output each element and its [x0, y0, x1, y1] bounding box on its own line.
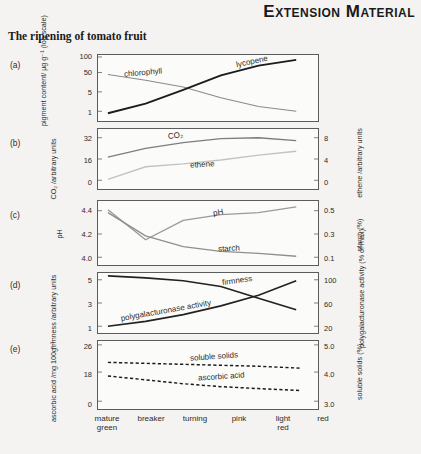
panel-b-rtick-8: 8: [324, 134, 354, 143]
header-band: Extension Material: [0, 0, 421, 26]
panel-b-tick-16: 16: [62, 156, 92, 165]
panel-e-tick-26: 26: [62, 342, 92, 351]
panel-b-tick-0: 0: [62, 178, 92, 187]
label-ph: pH: [212, 207, 224, 218]
panel-c-rtick-03: 0.3: [324, 230, 358, 239]
panel-e-tick-18: 18: [62, 370, 92, 379]
label-starch: starch: [218, 243, 240, 253]
panel-d-rtick-60: 60: [324, 300, 358, 309]
panel-d-tick-5: 5: [62, 276, 92, 285]
panel-d-rtick-100: 100: [324, 276, 358, 285]
panel-d-left-axis-label: firmness /arbitrary units: [50, 274, 58, 350]
panel-e-tick-0: 0: [62, 400, 92, 409]
series-ph: [108, 207, 296, 240]
panel-e-left-axis-label: ascorbic acid /mg 100g⁻¹: [50, 346, 58, 422]
panel-c-tick-42: 4.2: [58, 230, 92, 239]
panel-e-tag: (e): [10, 344, 20, 354]
x-label-red: red: [296, 414, 350, 423]
panel-e-rtick-30: 3.0: [324, 400, 358, 409]
panel-b-right-axis-label: ethene /arbitrary units: [356, 126, 364, 200]
panel-c-plot: [97, 200, 319, 266]
panel-d-tick-1: 1: [62, 324, 92, 333]
panel-c-tick-44: 4.4: [58, 206, 92, 215]
panel-e-right-axis-label: soluble solids (%): [356, 344, 364, 400]
figure-container: (a) pigment content/ µg g⁻¹ (log scale) …: [0, 48, 421, 454]
panel-e-rtick-50: 5.0: [324, 342, 358, 351]
page-title: Extension Material: [263, 2, 415, 22]
label-ethene: ethene: [190, 159, 215, 170]
panel-d-right-axis-label: polygalacturonase activity (% of max): [358, 264, 366, 348]
panel-b-rtick-4: 4: [324, 156, 354, 165]
panel-a-svg: [98, 55, 318, 121]
panel-a-tick-50: 50: [62, 68, 92, 77]
panel-c-rtick-05: 0.5: [324, 206, 358, 215]
panel-d-tag: (d): [10, 280, 20, 290]
panel-b-left-axis-label: CO₂ /arbitrary units: [50, 132, 58, 206]
panel-b-tag: (b): [10, 138, 20, 148]
panel-a-tick-100: 100: [62, 52, 92, 61]
x-label-mature-green-line2: green: [80, 423, 134, 432]
panel-a-ticks: [98, 57, 102, 111]
panel-d-tick-3: 3: [62, 300, 92, 309]
panel-c-tick-40: 4.0: [58, 254, 92, 263]
panel-e-rtick-40: 4.0: [324, 370, 358, 379]
panel-c-svg: [98, 201, 318, 265]
panel-c-tag: (c): [10, 210, 20, 220]
panel-c-rtick-01: 0.1: [324, 254, 358, 263]
panel-d-rtick-20: 20: [324, 324, 358, 333]
series-starch: [108, 213, 296, 257]
panel-a-tick-5: 5: [62, 88, 92, 97]
panel-a-left-axis-label: pigment content/ µg g⁻¹ (log scale): [40, 50, 48, 126]
panel-a-plot: [97, 54, 319, 122]
panel-b-rtick-0: 0: [324, 178, 354, 187]
x-label-red-line1: red: [296, 414, 350, 423]
page-root: Extension Material The ripening of tomat…: [0, 0, 421, 454]
figure-title: The ripening of tomato fruit: [8, 30, 147, 42]
label-co2: CO₂: [168, 130, 184, 141]
panel-b-tick-32: 32: [62, 134, 92, 143]
panel-a-tick-1: 1: [62, 108, 92, 117]
x-label-light-red-line2: red: [256, 423, 310, 432]
series-soluble-solids: [108, 362, 301, 368]
panel-a-tag: (a): [10, 60, 20, 70]
